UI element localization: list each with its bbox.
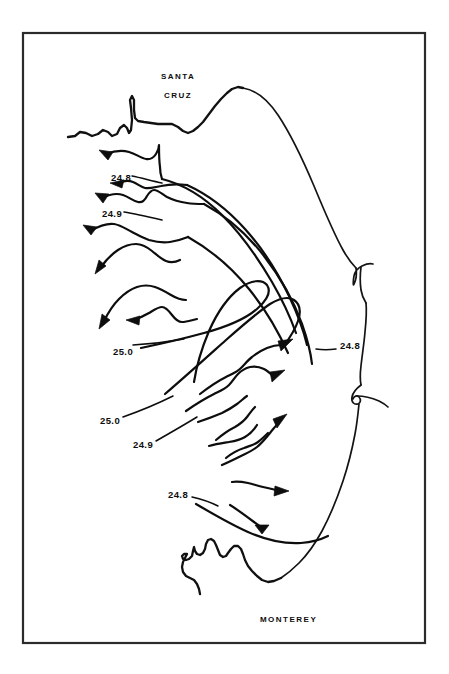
streamline-16 [196, 504, 328, 543]
coastline-inlet-upper [353, 264, 373, 285]
coastline-inlet-upper-branch [360, 267, 366, 303]
arrowhead-9-northeast [270, 370, 285, 382]
label-iso-248-upper: 24.8 [111, 172, 131, 183]
figure-root: SANTA CRUZ MONTEREY 24.8 24.9 25.0 25.0 … [0, 0, 449, 674]
coastline-eastern-shore-mid [360, 303, 366, 385]
label-santa-cruz: SANTA CRUZ [146, 63, 195, 110]
label-santa-cruz-line2: CRUZ [164, 91, 192, 100]
label-iso-250-mid: 25.0 [113, 346, 133, 357]
leader-iso-248-upper [132, 176, 162, 183]
label-iso-248-right: 24.8 [340, 340, 360, 351]
label-iso-248-bottom: 24.8 [168, 489, 188, 500]
coastline-inlet-lower [352, 385, 361, 404]
leader-iso-248-right [316, 349, 336, 350]
arrowhead-7-west [126, 316, 140, 325]
arrowhead-15-east [274, 486, 289, 496]
streamline-3 [102, 190, 204, 204]
label-iso-249-lower: 24.9 [133, 439, 153, 450]
streamline-15 [232, 482, 276, 490]
leader-iso-249-lower [156, 417, 197, 441]
label-iso-250-lower: 25.0 [100, 415, 120, 426]
coastline-monterey-peninsula [182, 539, 281, 594]
streamline-sweep-c [204, 204, 312, 364]
streamline-sweep-d [188, 237, 288, 353]
label-iso-249-upper: 24.9 [102, 208, 122, 219]
label-monterey: MONTEREY [245, 606, 317, 634]
coastline-eastern-shore [243, 88, 356, 268]
coastline-eastern-shore-lower [281, 404, 359, 578]
map-canvas [0, 0, 449, 674]
arrowhead-4-northwest [83, 225, 97, 235]
arrowhead-3-northwest [95, 193, 109, 203]
streamline-4 [90, 224, 188, 243]
leader-iso-250-lower [123, 396, 173, 417]
arrowhead-6-southwest [99, 314, 110, 329]
label-monterey-line1: MONTEREY [260, 615, 317, 624]
streamline-7 [133, 307, 197, 322]
label-santa-cruz-line1: SANTA [161, 72, 195, 81]
coastline-inlet-lower-spit [357, 396, 388, 407]
leader-iso-249-upper [124, 212, 162, 220]
streamline-9 [186, 367, 274, 411]
arrowhead-1-northwest [99, 150, 113, 160]
streamline-5 [101, 244, 180, 267]
